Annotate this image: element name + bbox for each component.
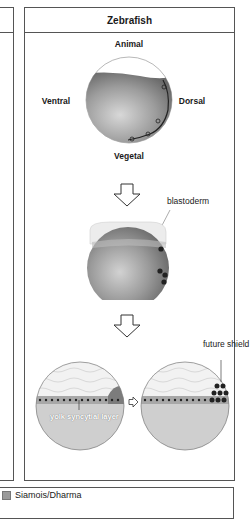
animal-label: Animal [104,39,154,49]
panel-title: Zebrafish [25,8,234,33]
future-shield-label: future shield [203,339,229,349]
legend-item: Siamois/Dharma [2,490,82,500]
right-arrow-icon [128,396,139,408]
legend-label: Siamois/Dharma [15,490,82,500]
left-panel-header-divider [0,32,13,33]
stage3-embryo-left [34,360,126,455]
ysl-label: yolk syncytial layer [50,412,119,421]
vegetal-label: Vegetal [104,151,154,161]
stage3-embryo-right [139,360,231,455]
ventral-label: Ventral [36,96,76,106]
stage2-embryo [80,200,190,300]
left-panel-fragment [0,7,14,481]
legend-swatch [2,491,11,500]
down-arrow-icon [113,314,141,338]
stage1-embryo [80,50,180,150]
